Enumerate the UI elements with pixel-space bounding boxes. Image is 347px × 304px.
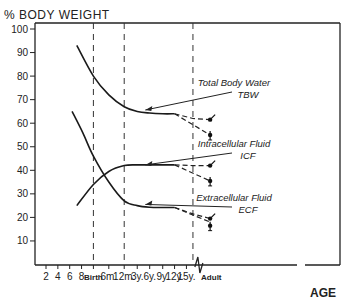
y-tick-label: 70 — [17, 94, 29, 105]
x-axis-label: AGE — [310, 286, 336, 300]
y-tick-label: 10 — [17, 235, 29, 246]
x-ticks: 2468Birth6m.12m.3y.6y.9y.12y.15y.Adult — [43, 265, 222, 282]
x-tick-label: 15y. — [177, 271, 195, 282]
icf-male-arrow — [211, 161, 215, 165]
y-tick-label: 90 — [17, 47, 29, 58]
ecf-dashed-projection-2 — [175, 208, 211, 223]
x-tick-label: 6y. — [143, 271, 156, 282]
tbw-curve — [77, 45, 175, 113]
icf-annotation-abbr: ICF — [240, 150, 257, 161]
tbw-annotation-label: Total Body Water — [198, 77, 271, 88]
y-ticks: 102030405060708090100 — [11, 24, 35, 247]
ecf-dashed-projection-1 — [175, 208, 211, 219]
y-tick-label: 80 — [17, 71, 29, 82]
vertical-dividers — [93, 23, 193, 265]
tbw-male-arrow — [211, 115, 215, 119]
chart-title: % BODY WEIGHT — [4, 8, 110, 22]
x-tick-label: 4 — [55, 271, 61, 282]
ecf-annotation-label: Extracellular Fluid — [196, 192, 272, 203]
icf-dashed-projection-2 — [175, 165, 211, 181]
y-tick-label: 100 — [11, 24, 28, 35]
ecf-curve — [72, 111, 175, 207]
ecf-annotation-abbr: ECF — [239, 204, 259, 215]
ecf-male-arrow — [211, 214, 215, 218]
axes — [35, 23, 340, 273]
annotations: Total Body WaterTBWIntracellular FluidIC… — [145, 77, 272, 215]
tbw-annotation-arrow — [145, 92, 232, 110]
icf-annotation-arrow — [145, 153, 232, 165]
x-tick-label: 3y. — [131, 271, 144, 282]
y-tick-label: 60 — [17, 118, 29, 129]
y-tick-label: 50 — [17, 141, 29, 152]
body-water-chart: % BODY WEIGHT AGE 102030405060708090100 … — [0, 0, 347, 304]
tbw-annotation-abbr: TBW — [237, 89, 259, 100]
tbw-dashed-projection-1 — [175, 114, 211, 120]
y-tick-label: 20 — [17, 212, 29, 223]
y-tick-label: 40 — [17, 165, 29, 176]
axis-break-mark — [195, 257, 203, 273]
tbw-dashed-projection-2 — [175, 114, 211, 135]
icf-annotation-label: Intracellular Fluid — [198, 138, 271, 149]
y-tick-label: 30 — [17, 188, 29, 199]
icf-curve — [77, 165, 175, 206]
icf-dashed-projection-1 — [175, 165, 211, 166]
x-tick-label: Adult — [201, 273, 222, 282]
x-tick-label: 2 — [43, 271, 49, 282]
x-tick-label: 6 — [67, 271, 73, 282]
ecf-annotation-arrow — [145, 204, 232, 207]
